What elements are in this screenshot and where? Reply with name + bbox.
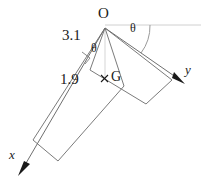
angle-arc-top [141,25,150,53]
long-arm-outline [33,28,124,161]
origin-label: O [98,6,109,21]
y-axis-label: y [185,63,191,76]
angle-top-label: θ [130,22,136,34]
dimension-short-label: 1.9 [60,72,79,87]
x-axis-arrowhead [18,161,30,176]
dimension-long-label: 3.1 [62,28,81,43]
mechanics-diagram: O 3.1 1.9 θ θ G x y [0,0,206,191]
angle-inner-label: θ [91,42,97,54]
x-axis-label: x [9,148,15,161]
y-axis-arrowhead [172,72,185,84]
diagram-canvas [0,0,206,191]
centroid-label: G [111,70,121,84]
